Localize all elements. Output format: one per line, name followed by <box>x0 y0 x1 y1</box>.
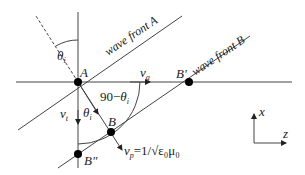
wave-front-b-label: wave front B <box>189 32 248 78</box>
point-b <box>107 128 115 136</box>
z-axis-label: z <box>282 126 288 141</box>
x-axis-label: x <box>258 104 265 119</box>
point-b-prime-label: B′ <box>176 66 187 81</box>
wave-front-diagram: θi A wave front A vg B′ wave front B 90−… <box>0 0 305 175</box>
wave-front-a-line <box>18 16 182 130</box>
svg-text:vg: vg <box>140 65 150 82</box>
svg-text:θi: θi <box>57 48 66 65</box>
svg-text:θi: θi <box>83 105 92 122</box>
svg-text:vt: vt <box>60 106 69 123</box>
vp-formula: =1/√ε₀μ₀ <box>134 143 180 158</box>
point-a-label: A <box>79 65 88 80</box>
theta-top-arc <box>56 40 78 46</box>
point-b-double-prime <box>74 150 82 158</box>
angle-90-label: 90− <box>100 89 120 104</box>
svg-text:vp=1/√ε₀μ₀: vp=1/√ε₀μ₀ <box>124 143 180 160</box>
svg-text:90−θi: 90−θi <box>100 89 129 106</box>
point-b-double-prime-label: B″ <box>84 153 98 168</box>
point-b-label: B <box>108 114 116 129</box>
